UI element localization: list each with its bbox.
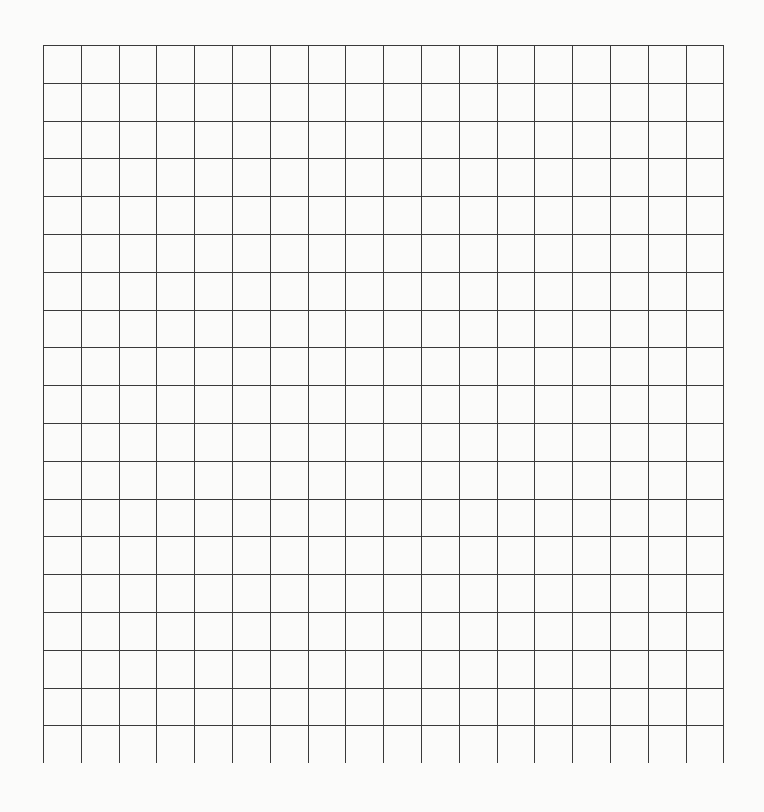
grid-vertical-line bbox=[572, 45, 573, 763]
grid-vertical-line bbox=[421, 45, 422, 763]
grid-vertical-line bbox=[383, 45, 384, 763]
grid-vertical-line bbox=[459, 45, 460, 763]
grid-vertical-line bbox=[723, 45, 724, 763]
grid-vertical-line bbox=[308, 45, 309, 763]
grid-vertical-line bbox=[648, 45, 649, 763]
grid-vertical-line bbox=[686, 45, 687, 763]
grid-vertical-line bbox=[81, 45, 82, 763]
grid-vertical-line bbox=[270, 45, 271, 763]
grid-vertical-line bbox=[497, 45, 498, 763]
grid-vertical-line bbox=[43, 45, 44, 763]
grid-vertical-line bbox=[232, 45, 233, 763]
grid-vertical-line bbox=[534, 45, 535, 763]
grid-vertical-line bbox=[119, 45, 120, 763]
grid-vertical-line bbox=[345, 45, 346, 763]
grid-vertical-line bbox=[194, 45, 195, 763]
grid-vertical-line bbox=[156, 45, 157, 763]
grid-vertical-line bbox=[610, 45, 611, 763]
